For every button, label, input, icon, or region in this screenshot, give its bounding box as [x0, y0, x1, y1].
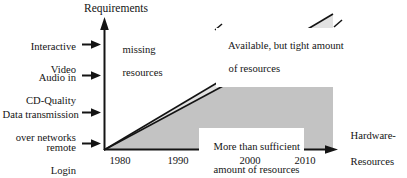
- x-tick-label-1980: 1980: [100, 155, 140, 166]
- annotation-more-than-sufficient: More than sufficient amount of resources: [199, 128, 304, 178]
- annotation-missing-resources: missing resources: [112, 33, 163, 90]
- annotation-line: More than sufficient: [214, 141, 300, 152]
- category-arrow-3-icon: [82, 139, 101, 147]
- category-label-line: Data transmission: [3, 109, 79, 120]
- category-label-line: Login: [51, 165, 76, 176]
- category-label-remote-login: remote Login: [0, 131, 76, 178]
- category-arrow-1-icon: [82, 71, 101, 79]
- category-arrow-0-icon: [82, 40, 101, 48]
- x-axis-title-line: Hardware-: [351, 130, 396, 141]
- requirements-resources-diagram: Requirements Interactive Video Audio in …: [0, 0, 407, 178]
- annotation-available-but-tight: Available, but tight amount of resources: [216, 28, 346, 87]
- annotation-line: of resources: [229, 63, 280, 74]
- annotation-line: Available, but tight amount: [228, 40, 344, 51]
- category-arrow-2-icon: [82, 108, 101, 116]
- category-label-line: remote: [47, 142, 76, 153]
- callout-tick-right-icon: [334, 20, 342, 27]
- y-axis-title: Requirements: [62, 2, 170, 14]
- annotation-line: missing: [123, 44, 156, 55]
- x-tick-label-2000: 2000: [230, 155, 270, 166]
- category-label-line: Audio in: [39, 72, 76, 83]
- x-axis-title: Hardware- Resources in Year ....: [340, 117, 396, 178]
- x-tick-label-1990: 1990: [158, 155, 198, 166]
- y-axis-arrowhead-icon: [100, 17, 109, 30]
- annotation-line: resources: [123, 67, 163, 78]
- x-tick-label-2010: 2010: [285, 155, 325, 166]
- category-label-line: Interactive: [31, 41, 76, 52]
- x-axis-title-line: Resources: [351, 156, 395, 167]
